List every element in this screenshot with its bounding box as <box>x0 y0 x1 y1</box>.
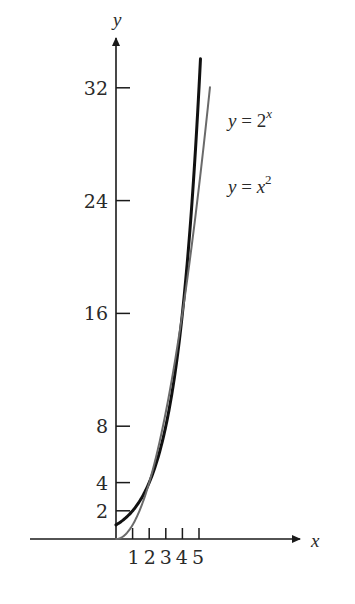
x-tick-labels: 12345 <box>128 546 204 568</box>
x-ticks: 12345 <box>128 528 204 568</box>
y-ticks: 248162432 <box>84 77 130 522</box>
axes: x y <box>30 9 320 551</box>
y-tick-label: 8 <box>96 415 108 437</box>
y-tick-label: 2 <box>96 500 108 522</box>
legend: y = 2xy = x2 <box>226 106 272 197</box>
y-axis-label: y <box>111 9 122 30</box>
y-tick-label: 4 <box>96 472 108 494</box>
y-tick-label: 24 <box>84 190 108 212</box>
chart: x y 12345 248162432 y = 2xy = x2 <box>0 0 355 604</box>
legend-label-quadratic: y = x2 <box>226 172 272 197</box>
y-tick-label: 16 <box>84 302 108 324</box>
x-axis-label: x <box>310 530 320 551</box>
legend-label-exponential: y = 2x <box>226 106 272 131</box>
curves <box>116 59 210 539</box>
curve-exponential <box>116 59 200 525</box>
y-tick-label: 32 <box>84 77 108 99</box>
